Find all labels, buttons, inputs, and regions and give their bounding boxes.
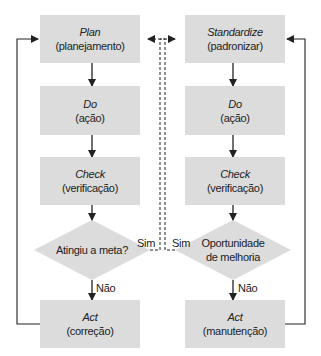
check-subtitle-left: (verificação) (62, 181, 118, 195)
do-subtitle-left: (ação) (75, 111, 104, 125)
act-subtitle-left: (correção) (66, 324, 113, 338)
feedback-act-to-standardize (285, 39, 305, 324)
check-title-left: Check (75, 167, 105, 181)
act-subtitle-right: (manutenção) (203, 324, 267, 338)
do-box-right: Do (ação) (185, 86, 285, 135)
plan-subtitle: (planejamento) (55, 39, 124, 53)
decision-text-right: Oportunidade de melhoria (183, 236, 283, 264)
do-subtitle-right: (ação) (220, 111, 249, 125)
yes-label-left: Sim (137, 237, 155, 249)
decision-text-left: Atingiu a meta? (42, 243, 142, 257)
act-box-right: Act (manutenção) (185, 300, 285, 348)
standardize-subtitle: (padronizar) (207, 39, 263, 53)
standardize-box: Standardize (padronizar) (185, 15, 285, 63)
do-box-left: Do (ação) (40, 86, 140, 135)
check-box-left: Check (verificação) (40, 157, 140, 205)
decision-text-right-line2: de melhoria (183, 250, 283, 264)
check-box-right: Check (verificação) (185, 157, 285, 205)
do-title-left: Do (83, 97, 96, 111)
standardize-title: Standardize (207, 25, 262, 39)
act-title-left: Act (83, 310, 98, 324)
act-title-right: Act (228, 310, 243, 324)
no-label-left: Não (96, 282, 115, 294)
pdca-sdca-diagram: Plan (planejamento) Do (ação) Check (ver… (0, 0, 321, 356)
check-title-right: Check (220, 167, 250, 181)
plan-box: Plan (planejamento) (40, 15, 140, 63)
act-box-left: Act (correção) (40, 300, 140, 348)
feedback-act-to-plan (17, 39, 40, 324)
check-subtitle-right: (verificação) (207, 181, 263, 195)
plan-title: Plan (80, 25, 101, 39)
dashed-yes-left-to-standardize (150, 39, 175, 250)
no-label-right: Não (238, 282, 257, 294)
decision-text-right-line1: Oportunidade (183, 236, 283, 250)
yes-label-right: Sim (172, 237, 190, 249)
do-title-right: Do (228, 97, 241, 111)
dashed-yes-right-to-plan (148, 39, 175, 250)
